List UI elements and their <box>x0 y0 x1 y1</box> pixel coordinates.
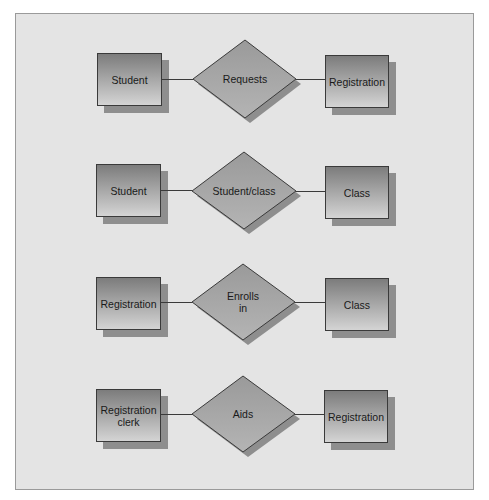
relationship-label-text: Requests <box>223 73 267 85</box>
relationship-label: Student/class <box>202 182 286 200</box>
relationship-label-text: Student/class <box>212 185 275 197</box>
relationship-label: Enrolls in <box>201 289 285 315</box>
relationship-label: Requests <box>203 70 287 88</box>
relationship-label-line2: in <box>239 302 247 314</box>
relationship-label-text: Aids <box>233 408 253 420</box>
relationship-label: Aids <box>201 405 285 423</box>
relationship-label-line1: Enrolls <box>227 290 259 302</box>
